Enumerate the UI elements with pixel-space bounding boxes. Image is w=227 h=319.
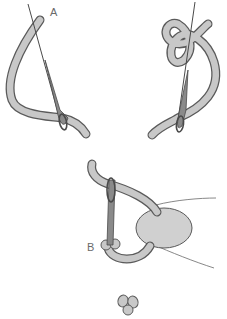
french-knot-diagram: A B	[0, 0, 227, 319]
knot-loop	[123, 305, 133, 315]
step-2	[152, 2, 216, 135]
step-4-finished-knot	[116, 294, 140, 315]
step-3: B	[87, 164, 216, 268]
finger	[136, 198, 216, 268]
label-b: B	[87, 241, 94, 253]
step-1: A	[10, 4, 86, 134]
label-a: A	[50, 6, 58, 18]
